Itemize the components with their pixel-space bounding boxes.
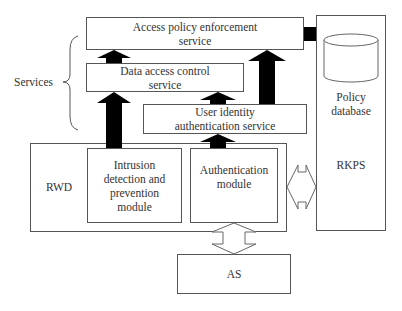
policy-db-line-2: database bbox=[316, 104, 386, 118]
arrow-intrusion-to-data-access bbox=[97, 92, 131, 148]
user-identity-line-2: authentication service bbox=[175, 119, 276, 133]
user-identity-authentication-service: User identity authentication service bbox=[143, 104, 307, 134]
arrow-data-access-to-access-policy bbox=[97, 50, 131, 63]
user-identity-line-1: User identity bbox=[195, 105, 255, 119]
services-brace bbox=[63, 36, 78, 130]
access-policy-enforcement-service: Access policy enforcement service bbox=[86, 17, 304, 50]
access-policy-line-1: Access policy enforcement bbox=[133, 20, 258, 34]
arrow-auth-to-user-identity bbox=[200, 134, 236, 148]
policy-database-cylinder-icon bbox=[324, 34, 378, 82]
data-access-line-1: Data access control bbox=[120, 64, 209, 78]
access-policy-line-2: service bbox=[179, 34, 212, 48]
services-label: Services bbox=[14, 75, 62, 89]
policy-db-line-1: Policy bbox=[316, 90, 386, 104]
policy-database-label: Policy database bbox=[316, 90, 386, 118]
arrow-user-identity-to-access-policy bbox=[248, 50, 286, 104]
arrow-auth-as-bidirectional bbox=[212, 223, 256, 254]
arrow-rwd-rkps-bidirectional bbox=[287, 165, 316, 209]
data-access-control-service: Data access control service bbox=[86, 63, 244, 92]
data-access-line-2: service bbox=[149, 78, 182, 92]
arrow-user-identity-to-data-access bbox=[200, 92, 236, 104]
